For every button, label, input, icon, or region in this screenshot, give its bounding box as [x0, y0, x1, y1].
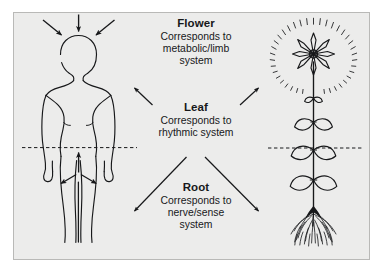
flower-heading: Flower — [136, 17, 256, 30]
root-heading: Root — [136, 181, 256, 194]
leaf-line-2: rhythmic system — [136, 127, 256, 139]
root-line-3: system — [136, 219, 256, 231]
root-line-2: nerve/sense — [136, 207, 256, 219]
text-block-root: Root Corresponds to nerve/sense system — [136, 181, 256, 231]
leaf-line-1: Corresponds to — [136, 115, 256, 127]
leaf-heading: Leaf — [136, 101, 256, 114]
text-block-flower: Flower Corresponds to metabolic/limb sys… — [136, 17, 256, 67]
flower-line-3: system — [136, 55, 256, 67]
diagram-canvas: Flower Corresponds to metabolic/limb sys… — [0, 0, 392, 272]
flower-line-2: metabolic/limb — [136, 43, 256, 55]
text-block-leaf: Leaf Corresponds to rhythmic system — [136, 101, 256, 139]
flower-line-1: Corresponds to — [136, 31, 256, 43]
root-line-1: Corresponds to — [136, 195, 256, 207]
